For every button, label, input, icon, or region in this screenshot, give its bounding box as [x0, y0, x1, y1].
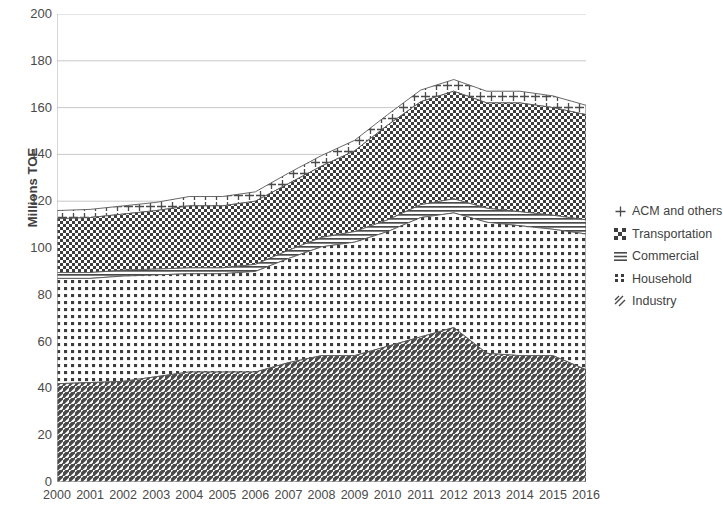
legend-item[interactable]: Household	[612, 268, 723, 291]
y-axis-tick-label: 60	[12, 335, 52, 348]
legend-item-label: ACM and others	[632, 205, 722, 218]
checker-icon	[612, 227, 628, 241]
y-axis-tick-labels: 020406080100120140160180200	[8, 0, 52, 512]
horizontal-lines-icon	[612, 249, 628, 263]
y-axis-tick-label: 40	[12, 381, 52, 394]
legend-item-label: Industry	[632, 295, 676, 308]
x-axis-tick-labels: 2000200120022003200420052006200720082009…	[57, 489, 586, 509]
legend-item-label: Household	[632, 273, 692, 286]
x-axis-tick-label: 2016	[566, 489, 606, 502]
legend-item[interactable]: Transportation	[612, 223, 723, 246]
plus-icon	[612, 204, 628, 218]
y-axis-tick-label: 0	[12, 475, 52, 488]
plot-area	[57, 14, 586, 482]
chart-legend: ACM and othersTransportationCommercialHo…	[612, 200, 723, 313]
y-axis-tick-label: 140	[12, 147, 52, 160]
y-axis-tick-label: 160	[12, 101, 52, 114]
plot-svg	[57, 14, 586, 482]
y-axis-tick-label: 120	[12, 194, 52, 207]
legend-item[interactable]: Commercial	[612, 245, 723, 268]
y-axis-tick-label: 20	[12, 428, 52, 441]
stacked-area-chart: Millions TOE 020406080100120140160180200	[0, 0, 723, 512]
series-areas	[57, 80, 586, 482]
dotted-grid-icon	[612, 272, 628, 286]
legend-item[interactable]: ACM and others	[612, 200, 723, 223]
legend-item-label: Commercial	[632, 250, 699, 263]
y-axis-tick-label: 180	[12, 54, 52, 67]
legend-item-label: Transportation	[632, 228, 712, 241]
y-axis-tick-label: 100	[12, 241, 52, 254]
y-axis-tick-label: 200	[12, 7, 52, 20]
y-axis-tick-label: 80	[12, 288, 52, 301]
diagonal-hatch-icon	[612, 294, 628, 308]
legend-item[interactable]: Industry	[612, 290, 723, 313]
